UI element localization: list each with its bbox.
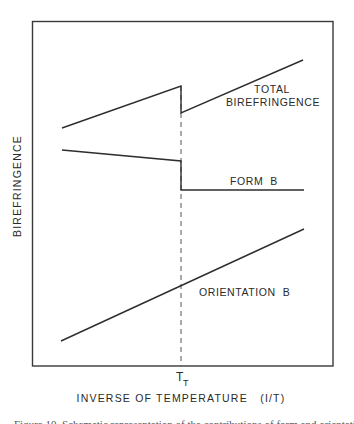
x-axis-label: INVERSE OF TEMPERATURE (I/T) xyxy=(77,392,286,404)
total-label-line2: BIREFRINGENCE xyxy=(226,96,320,108)
tt-subscript: T xyxy=(183,378,189,388)
figure-caption: Figure 10. Schematic representation of t… xyxy=(14,413,354,424)
total-label-line1: TOTAL xyxy=(254,83,290,95)
orientation-birefringence-curve xyxy=(61,229,304,341)
form-label: FORM B xyxy=(230,175,278,187)
y-axis-label: BIREFRINGENCE xyxy=(11,135,23,237)
orientation-label: ORIENTATION B xyxy=(199,286,290,298)
transition-temperature-marker: T T xyxy=(176,370,189,388)
plot-frame xyxy=(33,22,334,367)
